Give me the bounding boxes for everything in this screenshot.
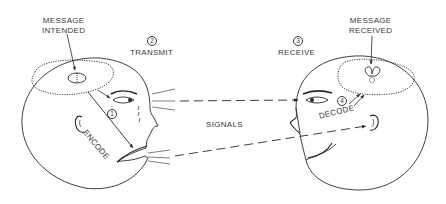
decode-arrow-eye [349, 94, 360, 104]
message-intended-label: MESSAGE INTENDED [42, 16, 85, 36]
step-2-badge: 2 [147, 36, 157, 46]
brain-to-eye-arrow [98, 90, 110, 98]
step-1-badge: 1 [107, 109, 117, 119]
decode-arrow-ear [354, 95, 364, 106]
signals-label: SIGNALS [206, 120, 243, 130]
receiver-brain-region [338, 59, 414, 95]
sender-brain-region [32, 60, 113, 94]
message-received-shape [365, 67, 380, 76]
transmit-label: TRANSMIT [130, 48, 173, 58]
sender-head [22, 58, 158, 189]
sender-mouth-emission [148, 150, 170, 164]
sender-eye-emission [152, 89, 175, 110]
communication-diagram: MESSAGE INTENDED 2 TRANSMIT 3 RECEIVE ME… [0, 0, 446, 204]
receive-label: RECEIVE [278, 48, 315, 58]
step-3-badge: 3 [293, 36, 303, 46]
message-intended-pointer [67, 34, 75, 70]
receiver-eye-icon [306, 97, 328, 103]
receiver-ear-icon [370, 115, 378, 130]
signal-arrow-visual [180, 100, 298, 101]
sender-head-outline [22, 58, 158, 189]
signal-arrow-audio [175, 126, 366, 156]
receiver-head [290, 56, 428, 190]
receiver-mouth-icon [308, 143, 332, 158]
message-received-label: MESSAGE RECEIVED [349, 16, 392, 36]
receiver-head-outline [290, 56, 428, 190]
